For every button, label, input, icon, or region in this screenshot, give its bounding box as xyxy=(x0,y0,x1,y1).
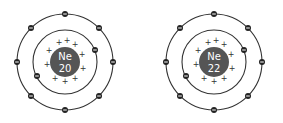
svg-text:+: + xyxy=(46,46,53,55)
neon-isotopes-diagram: +++ ++ ++ +++ Ne 20 +++ ++ ++ +++ xyxy=(0,0,283,123)
svg-text:+: + xyxy=(193,60,200,69)
svg-text:+: + xyxy=(211,77,218,86)
mass-number: 22 xyxy=(208,63,221,74)
svg-text:+: + xyxy=(205,38,212,47)
svg-text:+: + xyxy=(62,77,69,86)
svg-text:+: + xyxy=(64,36,71,45)
svg-text:+: + xyxy=(229,64,236,73)
svg-text:+: + xyxy=(44,60,51,69)
svg-text:+: + xyxy=(56,38,63,47)
svg-text:+: + xyxy=(228,50,235,59)
svg-text:+: + xyxy=(221,40,228,49)
svg-text:+: + xyxy=(195,46,202,55)
element-symbol: Ne xyxy=(207,51,221,62)
element-symbol: Ne xyxy=(58,51,72,62)
atom-ne-20: +++ ++ ++ +++ Ne 20 xyxy=(14,11,116,113)
svg-text:+: + xyxy=(79,50,86,59)
svg-text:+: + xyxy=(80,64,87,73)
svg-text:+: + xyxy=(213,36,220,45)
mass-number: 20 xyxy=(59,63,72,74)
svg-text:+: + xyxy=(72,40,79,49)
atom-ne-22: +++ ++ ++ +++ Ne 22 xyxy=(163,11,265,113)
